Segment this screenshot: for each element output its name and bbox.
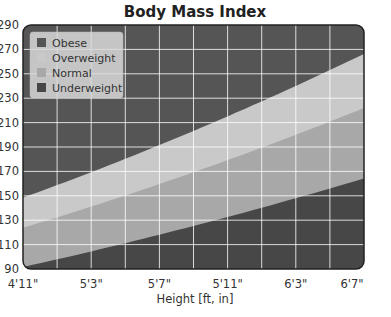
underweight-swatch-icon [37, 83, 46, 92]
y-tick-label: 90 [4, 262, 19, 276]
x-axis-ticks: 4'11"5'3"5'7"5'11"6'3"6'7" [8, 277, 364, 291]
svg-text:Obese: Obese [52, 37, 87, 50]
obese-swatch-icon [37, 38, 46, 47]
bmi-chart: Body Mass Index 290270250230210190170150… [0, 0, 391, 317]
y-tick-label: 250 [0, 67, 19, 81]
chart-title: Body Mass Index [124, 3, 267, 21]
legend: Obese Overweight Normal Underweight [30, 32, 123, 98]
y-tick-label: 230 [0, 91, 19, 105]
svg-text:Normal: Normal [52, 67, 92, 80]
y-tick-label: 290 [0, 18, 19, 32]
svg-text:Underweight: Underweight [52, 82, 123, 95]
chart-canvas: Body Mass Index 290270250230210190170150… [0, 0, 391, 317]
y-tick-label: 130 [0, 213, 19, 227]
x-tick-label: 6'7" [340, 277, 363, 291]
y-tick-label: 270 [0, 42, 19, 56]
x-tick-label: 5'7" [148, 277, 171, 291]
x-tick-label: 6'3" [284, 277, 307, 291]
y-axis-ticks: 29027025023021019017015013011090 [0, 18, 19, 276]
y-tick-label: 110 [0, 238, 19, 252]
y-tick-label: 150 [0, 189, 19, 203]
y-tick-label: 170 [0, 164, 19, 178]
y-tick-label: 210 [0, 116, 19, 130]
x-tick-label: 5'3" [80, 277, 103, 291]
x-tick-label: 5'11" [212, 277, 242, 291]
svg-text:Overweight: Overweight [52, 52, 116, 65]
overweight-swatch-icon [37, 53, 46, 62]
x-tick-label: 4'11" [8, 277, 38, 291]
x-axis-label: Height [ft, in] [157, 292, 234, 306]
y-tick-label: 190 [0, 140, 19, 154]
normal-swatch-icon [37, 68, 46, 77]
